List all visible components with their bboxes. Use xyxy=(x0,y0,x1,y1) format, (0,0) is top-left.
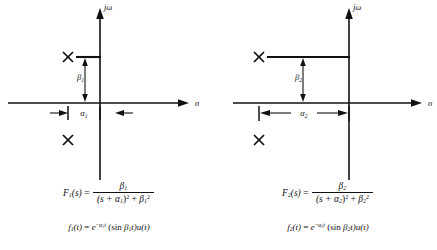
numerator-right: β2 xyxy=(312,181,373,192)
jw-axis-left xyxy=(96,8,104,180)
pole-marker-lower-left xyxy=(63,135,73,145)
time-domain-equation-right: f2(t) = e−α2t (sin β2t)u(t) xyxy=(219,222,437,232)
denominator-right: (s + α2)2 + β22 xyxy=(312,192,373,206)
fraction-right: β2 (s + α2)2 + β22 xyxy=(311,181,374,206)
s-plane-diagram-right: β2 α2 jω σ xyxy=(219,0,437,180)
jw-axis-label-left: jω xyxy=(103,2,112,12)
sigma-axis-right xyxy=(233,99,422,107)
pole-marker-lower-right xyxy=(254,135,264,145)
jw-axis-label-right: jω xyxy=(352,2,361,12)
transform-equation-right: F2(s) = β2 (s + α2)2 + β22 xyxy=(219,181,437,206)
pole-marker-upper-left xyxy=(63,52,73,62)
pole-marker-upper-right xyxy=(254,52,264,62)
alpha-label-right: α2 xyxy=(300,108,307,119)
alpha-label-left: α1 xyxy=(80,108,87,119)
transform-equation-left: F1(s) = β1 (s + α1)2 + β12 xyxy=(0,181,218,206)
sigma-axis-label-right: σ xyxy=(428,98,433,108)
F-argument-left: (s) xyxy=(72,188,82,198)
denominator-left: (s + α1)2 + β12 xyxy=(93,192,154,206)
time-domain-equation-left: f1(t) = e−α1t (sin β1t)u(t) xyxy=(0,222,218,232)
beta-label-left: β1 xyxy=(76,72,84,83)
alpha-dimension-left xyxy=(50,106,133,120)
panel-right: β2 α2 jω σ F2(s) = β2 (s + α2)2 + β22 xyxy=(219,0,437,250)
numerator-left: β1 xyxy=(93,181,154,192)
s-plane-diagram-left: β1 α1 jω σ xyxy=(0,0,218,180)
jw-axis-right xyxy=(345,8,353,180)
F-argument-right: (s) xyxy=(291,188,301,198)
beta-label-right: β2 xyxy=(294,72,302,83)
sigma-axis-left xyxy=(8,99,189,107)
equals-sign-right: = xyxy=(303,188,308,198)
figure-root: β1 α1 jω σ F1(s) = β1 (s + α1)2 + xyxy=(0,0,437,250)
fraction-left: β1 (s + α1)2 + β12 xyxy=(92,181,155,206)
equals-sign-left: = xyxy=(84,188,89,198)
panel-left: β1 α1 jω σ F1(s) = β1 (s + α1)2 + xyxy=(0,0,218,250)
sigma-axis-label-left: σ xyxy=(195,98,200,108)
